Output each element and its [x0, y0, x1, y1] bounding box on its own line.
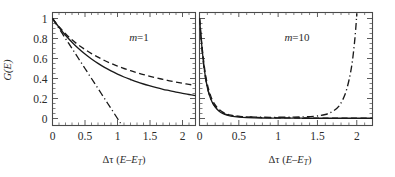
two-panel-line-chart: 00.511.52 00.20.40.60.81 m=1 Δτ (E–ET) G…: [0, 0, 395, 177]
right-x-tick-label-4: 2: [354, 130, 360, 142]
panel-left: 00.511.52 00.20.40.60.81 m=1 Δτ (E–ET) G…: [2, 13, 196, 168]
right-annot-m: m: [284, 31, 292, 43]
right-panel-x-tick-labels: 00.511.52: [197, 130, 360, 142]
left-curve-solid: [53, 19, 196, 96]
y-tick-label-5: 1: [42, 13, 48, 25]
right-panel-frame: [200, 13, 373, 126]
left-x-tick-label-0: 0: [50, 130, 56, 142]
right-panel-curves: [200, 14, 373, 119]
left-x-tick-label-2: 1: [115, 130, 121, 142]
left-curve-dashed: [53, 19, 196, 86]
left-x-tick-label-3: 1.5: [143, 130, 158, 142]
left-x-tick-label-4: 2: [180, 130, 186, 142]
right-x-tick-label-0: 0: [197, 130, 203, 142]
left-annot-eq: =1: [137, 31, 149, 43]
right-x-tick-label-1: 0.5: [232, 130, 247, 142]
right-panel-x-axis-title: Δτ (E–ET): [269, 154, 312, 167]
y-tick-label-4: 0.8: [33, 33, 48, 45]
left-panel-y-tick-labels: 00.20.40.60.81: [33, 13, 48, 125]
right-x-tick-label-3: 1.5: [310, 130, 325, 142]
y-tick-label-1: 0.2: [33, 93, 48, 105]
y-axis-title: G(E): [2, 59, 14, 81]
right-annot-eq: =10: [292, 31, 310, 43]
y-tick-label-0: 0: [42, 113, 48, 125]
left-x-tick-label-1: 0.5: [78, 130, 93, 142]
right-x-tick-label-2: 1: [275, 130, 281, 142]
right-curve-dash-dot: [200, 14, 357, 118]
left-panel-annotation: m=1: [129, 31, 149, 43]
left-panel-curves: [53, 19, 196, 124]
figure-container: 00.511.52 00.20.40.60.81 m=1 Δτ (E–ET) G…: [0, 0, 395, 177]
right-panel-annotation: m=10: [284, 31, 310, 43]
y-tick-label-2: 0.4: [33, 73, 48, 85]
panel-right: 00.511.52 m=10 Δτ (E–ET): [197, 13, 373, 168]
y-tick-label-3: 0.6: [33, 53, 48, 65]
right-panel-ticks: [200, 13, 373, 126]
left-panel-x-tick-labels: 00.511.52: [50, 130, 186, 142]
left-annot-m: m: [129, 31, 137, 43]
left-panel-x-axis-title: Δτ (E–ET): [103, 154, 146, 167]
